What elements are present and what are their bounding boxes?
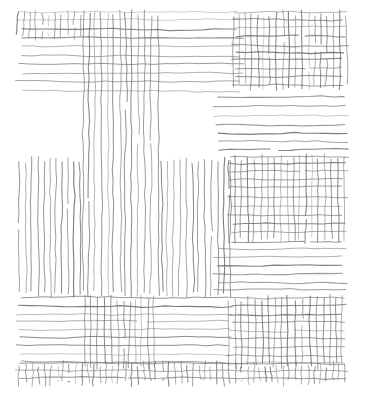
hatch-band-bottom-right-horizontal-block: [227, 297, 346, 363]
hatch-band-top-vertical-left-strip: [16, 11, 81, 40]
hatch-band-mid-left-vertical-block: [18, 157, 81, 298]
hatch-band-bottom-strip-vertical: [18, 361, 345, 387]
hatch-band-top-horizontal-left-wide: [16, 11, 244, 92]
hatch-band-mid-center-vertical-extension: [161, 157, 232, 297]
artboard: [0, 0, 372, 404]
hatch-band-top-horizontal-right-upper: [232, 11, 349, 86]
hatch-band-mid-right-vertical-block: [228, 154, 345, 244]
hatch-band-top-vertical-center-column: [82, 10, 159, 297]
hatch-band-upper-right-horizontal-band: [213, 96, 348, 151]
hatching-drawing: [0, 0, 372, 404]
hatch-band-right-horizontal-band-lower: [213, 248, 347, 290]
hatch-band-top-vertical-right-block: [233, 10, 348, 90]
